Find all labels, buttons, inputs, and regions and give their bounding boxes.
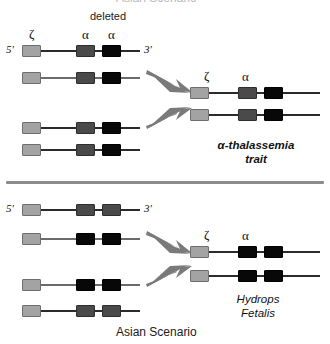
gene-alpha-deleted-1 (238, 270, 257, 282)
five-prime-label-top: 5' (6, 44, 14, 55)
top-parent-chromosome-2 (22, 71, 140, 85)
result-alpha-label-top: α (242, 70, 249, 83)
top-parent-chromosome-4 (22, 143, 140, 157)
alpha-present-label-top: α (82, 28, 89, 41)
gene-alpha-present (76, 122, 95, 134)
zeta-label-top: ζ (29, 27, 34, 40)
top-parent-chromosome-3 (22, 121, 140, 135)
gene-alpha-deleted-2 (102, 233, 121, 245)
gene-zeta (22, 279, 41, 291)
gene-zeta (190, 270, 209, 282)
gene-zeta (190, 109, 209, 121)
gene-zeta (22, 45, 41, 57)
inheritance-arrow-up-right-top (146, 104, 194, 132)
gene-alpha-deleted-2 (102, 279, 121, 291)
bottom-parent-chromosome-1 (22, 203, 140, 217)
gene-alpha-deleted (264, 109, 283, 121)
top-parent-chromosome-1 (22, 44, 140, 58)
gene-alpha-1 (76, 305, 95, 317)
gene-alpha-deleted (102, 144, 121, 156)
gene-alpha-deleted-2 (264, 270, 283, 282)
bottom-result-chromosome-2 (190, 269, 320, 283)
gene-alpha-deleted (102, 72, 121, 84)
deleted-label-top: deleted (90, 11, 126, 22)
gene-alpha-deleted (102, 122, 121, 134)
gene-alpha-present (238, 87, 257, 99)
gene-zeta (22, 122, 41, 134)
gene-alpha-present (76, 45, 95, 57)
bottom-parent-chromosome-2 (22, 232, 140, 246)
gene-alpha-deleted-1 (76, 279, 95, 291)
gene-zeta (22, 204, 41, 216)
three-prime-label-bottom: 3' (144, 203, 152, 214)
result-alpha-label-bottom: α (242, 229, 249, 242)
gene-alpha-deleted-1 (238, 246, 257, 258)
alpha-deleted-label-top: α (108, 28, 115, 41)
gene-alpha-deleted-2 (264, 246, 283, 258)
three-prime-label-top: 3' (144, 44, 152, 55)
gene-alpha-deleted (102, 45, 121, 57)
gene-zeta (22, 233, 41, 245)
gene-alpha-present (76, 72, 95, 84)
gene-alpha-deleted-1 (76, 233, 95, 245)
inheritance-arrow-up-right-bottom (146, 262, 194, 290)
gene-alpha-1 (76, 204, 95, 216)
top-result-chromosome-1 (190, 86, 320, 100)
top-outcome-line1: α-thalassemia (218, 139, 295, 151)
bottom-outcome-line1: Hydrops (237, 293, 280, 305)
gene-zeta (22, 72, 41, 84)
top-result-chromosome-2 (190, 108, 320, 122)
bottom-outcome-line2: Fetalis (241, 307, 275, 319)
gene-alpha-deleted (264, 87, 283, 99)
panel-divider (6, 181, 324, 184)
gene-zeta (22, 144, 41, 156)
inheritance-arrow-down-right-bottom (146, 229, 194, 257)
top-scenario-title: Asian Scenario (116, 0, 197, 4)
gene-zeta (190, 246, 209, 258)
gene-alpha-2 (102, 305, 121, 317)
bottom-result-chromosome-1 (190, 245, 320, 259)
top-outcome-label: α-thalassemia trait (192, 138, 320, 167)
gene-zeta (190, 87, 209, 99)
bottom-parent-chromosome-4 (22, 304, 140, 318)
gene-alpha-present (238, 109, 257, 121)
figure-canvas: Asian Scenario deleted ζ α α 5' 3' (0, 0, 330, 344)
result-zeta-label-top: ζ (204, 69, 209, 82)
bottom-parent-chromosome-3 (22, 278, 140, 292)
gene-alpha-2 (102, 204, 121, 216)
result-zeta-label-bottom: ζ (204, 228, 209, 241)
bottom-scenario-title: Asian Scenario (116, 326, 197, 338)
gene-zeta (22, 305, 41, 317)
inheritance-arrow-down-right-top (146, 68, 194, 96)
gene-alpha-present (76, 144, 95, 156)
five-prime-label-bottom: 5' (6, 203, 14, 214)
bottom-outcome-label: Hydrops Fetalis (198, 292, 318, 321)
top-outcome-line2: trait (245, 153, 267, 165)
